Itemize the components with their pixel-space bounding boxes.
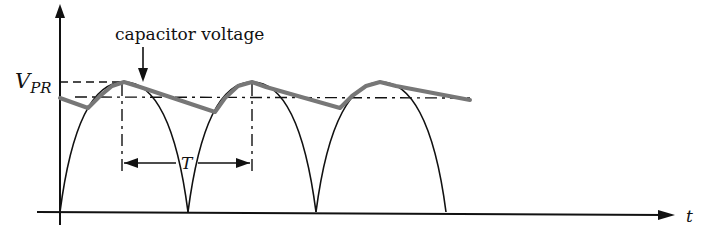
y-axis-arrow-icon: [55, 4, 65, 18]
down-arrow-icon: [138, 68, 148, 82]
hump-3: [316, 82, 446, 212]
left-arrow-icon: [124, 158, 138, 168]
hump-1: [60, 82, 188, 212]
capacitor-voltage-label: capacitor voltage: [115, 24, 264, 44]
rectified-wave: [60, 82, 446, 212]
time-axis-label: t: [686, 206, 693, 226]
rectifier-ripple-diagram: capacitor voltage VPR T t: [0, 0, 712, 240]
average-dashdot-line: [75, 97, 470, 98]
right-arrow-icon: [236, 158, 250, 168]
x-axis: [37, 210, 675, 220]
x-axis-arrow-icon: [658, 210, 675, 220]
vpr-label: VPR: [15, 69, 52, 97]
period-label: T: [181, 153, 194, 173]
vpr-label-sub: PR: [29, 79, 51, 97]
capacitor-voltage-pointer: [138, 47, 148, 82]
